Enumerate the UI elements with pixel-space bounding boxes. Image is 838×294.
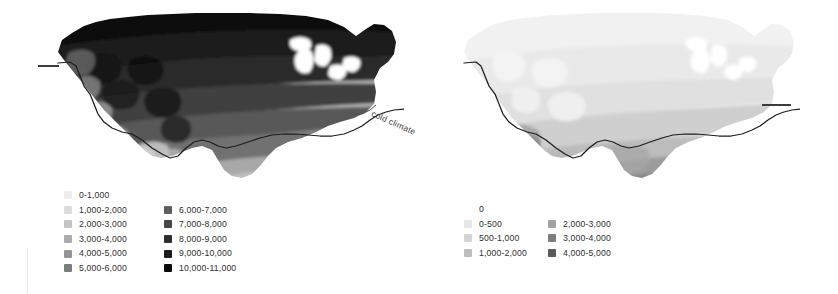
legend-label: 4,000-5,000 [79,249,127,258]
legend-label: 2,000-3,000 [79,220,127,229]
legend-swatch [464,220,472,228]
legend-item[interactable]: 10,000-11,000 [164,261,236,276]
legend-item[interactable]: 5,000-6,000 [64,261,164,276]
legend-item[interactable]: 1,000-2,000 [64,203,164,218]
legend-label: 5,000-6,000 [79,264,127,273]
legend-label: 10,000-11,000 [179,264,236,273]
legend-item[interactable]: 9,000-10,000 [164,246,236,261]
legend-label: 3,000-4,000 [79,235,127,244]
legend-item[interactable]: 3,000-4,000 [64,232,164,247]
latitude-tick-left [38,65,59,67]
legend-swatch [164,264,172,272]
legend-swatch [64,220,72,228]
legend-right-column-1: 0 0-500 500-1,000 1,000-2,000 [464,202,548,260]
legend-label: 6,000-7,000 [179,206,227,215]
cooling-degree-days-map-svg [450,0,800,190]
legend-label: 3,000-4,000 [563,234,611,243]
legend-swatch [64,235,72,243]
legend-item[interactable]: 4,000-5,000 [548,246,611,261]
figure-canvas: cold climate 0-1,000 1,000-2,000 2,000-3… [0,0,838,294]
legend-swatch [164,206,172,214]
legend-item[interactable]: 3,000-4,000 [548,231,611,246]
legend-swatch [548,220,556,228]
legend-label: 0-1,000 [79,191,110,200]
legend-item[interactable]: 2,000-3,000 [548,217,611,232]
legend-swatch [548,234,556,242]
legend-label: 7,000-8,000 [179,220,227,229]
legend-swatch [164,220,172,228]
legend-label: 1,000-2,000 [79,206,127,215]
legend-item[interactable]: 0-1,000 [64,188,164,203]
legend-item[interactable]: 7,000-8,000 [164,217,236,232]
legend-label: 0-500 [479,220,502,229]
legend-left-column-2: 6,000-7,000 7,000-8,000 8,000-9,000 9,00… [164,188,236,276]
legend-label: 1,000-2,000 [479,249,527,258]
legend-item[interactable]: 0 [464,202,548,217]
legend-label: 4,000-5,000 [563,249,611,258]
latitude-tick-right [762,104,791,106]
legend-swatch [464,234,472,242]
legend-swatch [64,264,72,272]
cold-climate-callout: cold climate [352,92,448,136]
legend-swatch [64,206,72,214]
legend-swatch [464,205,472,213]
legend-label: 500-1,000 [479,234,519,243]
legend-label: 2,000-3,000 [563,220,611,229]
legend-swatch [164,250,172,258]
legend-item[interactable]: 8,000-9,000 [164,232,236,247]
legend-label: 8,000-9,000 [179,235,227,244]
legend-item[interactable]: 4,000-5,000 [64,246,164,261]
legend-item[interactable]: 1,000-2,000 [464,246,548,261]
cooling-degree-days-map [450,0,800,190]
legend-swatch [464,249,472,257]
legend-right-column-2: 2,000-3,000 3,000-4,000 4,000-5,000 [548,202,611,260]
legend-left-column-1: 0-1,000 1,000-2,000 2,000-3,000 3,000-4,… [64,188,164,276]
legend-item[interactable]: 500-1,000 [464,231,548,246]
legend-item[interactable]: 6,000-7,000 [164,203,236,218]
heating-degree-days-map [44,0,404,190]
legend-swatch [164,235,172,243]
gutter-divider [27,248,28,294]
legend-left: 0-1,000 1,000-2,000 2,000-3,000 3,000-4,… [64,188,236,276]
legend-swatch [64,191,72,199]
legend-label: 0 [479,205,484,214]
heating-degree-days-map-svg [44,0,404,190]
legend-item[interactable]: 0-500 [464,217,548,232]
legend-swatch [548,249,556,257]
legend-right: 0 0-500 500-1,000 1,000-2,000 2,00 [464,202,611,260]
legend-label: 9,000-10,000 [179,249,232,258]
legend-item[interactable]: 2,000-3,000 [64,217,164,232]
legend-swatch [64,250,72,258]
